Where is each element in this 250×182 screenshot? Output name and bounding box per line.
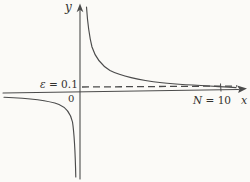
n-label: N = 10 [193,95,231,106]
x-axis-label: x [241,95,247,106]
y-axis-label: y [65,1,72,13]
epsilon-label: ε = 0.1 [40,79,77,90]
limit-definition-figure: y ε = 0.1 0 N = 10 x [0,0,250,182]
curve-left-branch [4,97,76,177]
n-symbol: N [193,94,202,106]
n-value: = 10 [202,94,231,106]
x-axis-line [3,90,239,94]
plot-canvas [0,0,250,182]
epsilon-value: = 0.1 [46,78,78,90]
curve-right-branch [87,7,237,88]
origin-label: 0 [68,94,74,104]
n-tick-mark [221,84,222,92]
